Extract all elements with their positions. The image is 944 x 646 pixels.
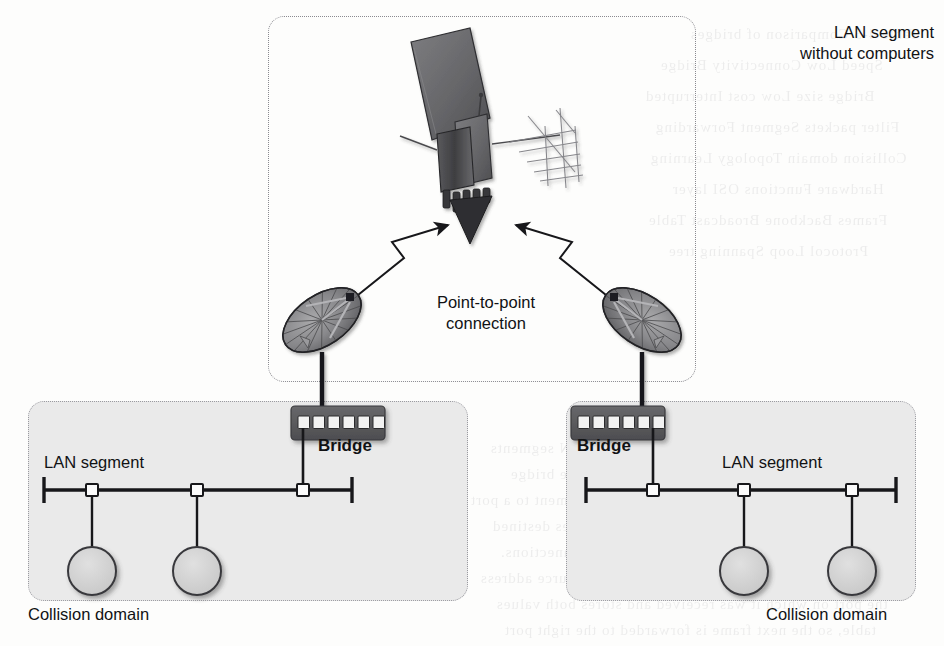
bridge-label-left: Bridge xyxy=(318,435,372,456)
diagram-page: Table 4-5 Comparison of bridgesSpeed Low… xyxy=(0,0,944,646)
right-lan-bus xyxy=(586,477,896,595)
left-lan-bus xyxy=(44,477,352,595)
collision-domain-label-left: Collision domain xyxy=(28,604,149,625)
right-point-to-point-link xyxy=(516,225,606,295)
satellite-dish-icon-right xyxy=(592,275,693,412)
computer-node xyxy=(828,547,876,595)
left-point-to-point-link xyxy=(358,225,448,295)
bridge-label-right: Bridge xyxy=(577,435,631,456)
point-to-point-connection-label: Point-to-point connection xyxy=(380,292,592,334)
collision-domain-label-right: Collision domain xyxy=(766,604,887,625)
satellite-icon xyxy=(400,28,583,244)
lan-segment-without-computers-label: LAN segment without computers xyxy=(644,22,944,64)
lan-segment-label-left: LAN segment xyxy=(44,452,144,473)
satellite-dish-icon-left xyxy=(272,275,373,412)
computer-node xyxy=(720,547,768,595)
computer-node xyxy=(68,547,116,595)
computer-node xyxy=(173,547,221,595)
lan-segment-label-right: LAN segment xyxy=(722,452,822,473)
